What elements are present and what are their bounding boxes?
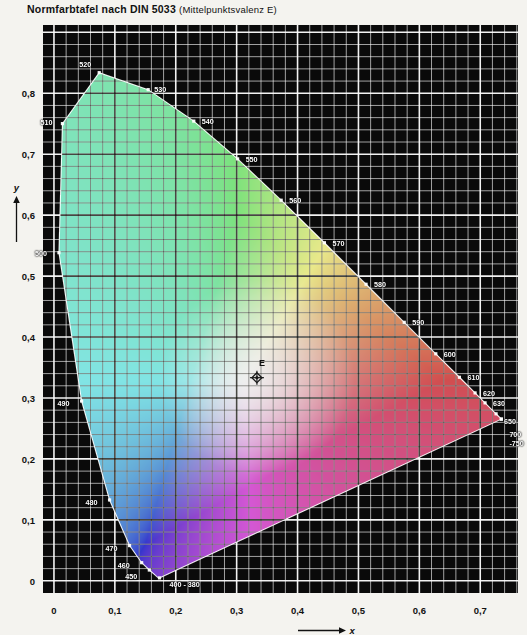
chromaticity-color-field xyxy=(43,25,518,593)
y-tick-label: 0,8 xyxy=(8,88,35,99)
x-tick-label: 0,6 xyxy=(413,605,426,616)
y-axis-arrow-icon xyxy=(12,196,21,246)
page-title: Normfarbtafel nach DIN 5033 (Mittelpunkt… xyxy=(27,3,277,15)
x-tick-label: 0,5 xyxy=(352,605,365,616)
x-tick-label: 0,4 xyxy=(291,605,304,616)
x-axis-title: x xyxy=(298,621,355,635)
x-axis-name: x xyxy=(350,625,355,635)
y-tick-label: 0,4 xyxy=(8,332,35,343)
y-tick-label: 0,3 xyxy=(8,392,35,403)
y-tick-label: 0 xyxy=(8,575,35,586)
y-axis-name: y xyxy=(14,182,19,193)
x-tick-label: 0,3 xyxy=(230,605,243,616)
x-axis-arrow-icon xyxy=(298,621,346,635)
x-tick-label: 0 xyxy=(51,605,56,616)
y-tick-label: 0,2 xyxy=(8,453,35,464)
x-tick-label: 0,7 xyxy=(474,605,487,616)
title-main: Normfarbtafel nach DIN 5033 xyxy=(27,3,176,15)
y-tick-label: 0,7 xyxy=(8,149,35,160)
x-tick-label: 0,1 xyxy=(108,605,121,616)
title-sub: (Mittelpunktsvalenz E) xyxy=(179,4,277,15)
y-tick-label: 0,5 xyxy=(8,271,35,282)
x-tick-label: 0,2 xyxy=(169,605,182,616)
y-tick-label: 0,1 xyxy=(8,514,35,525)
y-axis-title: y xyxy=(12,182,21,246)
chromaticity-diagram xyxy=(43,25,518,593)
